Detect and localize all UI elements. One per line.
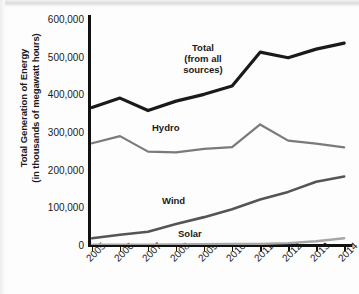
y-axis-tick-label: 100,000 bbox=[22, 202, 84, 213]
scan-artifact-left bbox=[0, 0, 5, 294]
energy-generation-line-chart: Total Generation of Energy (in thousands… bbox=[0, 0, 359, 294]
series-label-total-line-3: sources) bbox=[183, 64, 223, 75]
series-label-total-line-2: (from all bbox=[184, 53, 221, 64]
y-axis-tick-label: 200,000 bbox=[22, 164, 84, 175]
y-axis-tick-label: 600,000 bbox=[22, 14, 84, 25]
series-label-hydro: Hydro bbox=[152, 122, 179, 133]
series-line-hydro bbox=[92, 124, 344, 152]
series-label-total-line-1: Total bbox=[192, 42, 214, 53]
series-line-wind bbox=[92, 176, 344, 238]
y-axis-tick-label: 500,000 bbox=[22, 51, 84, 62]
series-label-total: Total (from all sources) bbox=[172, 42, 234, 75]
series-label-wind: Wind bbox=[162, 195, 185, 206]
y-axis-tick-label: 400,000 bbox=[22, 89, 84, 100]
y-axis-tick-label: 0 bbox=[22, 240, 84, 251]
series-line-solar bbox=[92, 238, 344, 244]
series-label-solar: Solar bbox=[178, 228, 202, 239]
y-axis-tick-label: 300,000 bbox=[22, 127, 84, 138]
y-axis-tick-labels: 0100,000200,000300,000400,000500,000600,… bbox=[22, 0, 84, 294]
